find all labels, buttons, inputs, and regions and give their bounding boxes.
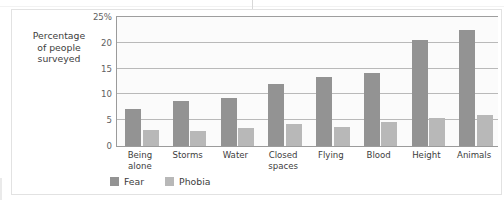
x-axis-label-animals: Animals — [450, 150, 498, 161]
legend-entry-fear[interactable]: Fear — [110, 176, 144, 187]
bar-phobia-closed-spaces — [286, 124, 302, 146]
y-tick-label-20: 20 — [66, 38, 112, 48]
y-tick-label-25%: 25% — [66, 12, 112, 22]
bar-fear-height — [412, 40, 428, 146]
plot-area — [116, 17, 498, 146]
x-label-line: Closed — [259, 150, 307, 161]
chart-figure: Percentage of people surveyed 0510152025… — [0, 0, 504, 200]
legend-swatch-icon-phobia — [165, 177, 174, 186]
legend-label-phobia: Phobia — [179, 176, 210, 187]
x-axis-label-being-alone: Beingalone — [116, 150, 164, 171]
x-label-line: Storms — [164, 150, 212, 161]
x-axis-label-height: Height — [403, 150, 451, 161]
bar-phobia-flying — [334, 127, 350, 146]
y-tick-label-5: 5 — [66, 115, 112, 125]
bar-fear-flying — [316, 77, 332, 146]
y-axis-line — [116, 17, 117, 147]
x-axis-label-flying: Flying — [307, 150, 355, 161]
x-label-line: Water — [212, 150, 260, 161]
bar-phobia-being-alone — [143, 130, 159, 146]
gridline-25 — [116, 16, 498, 17]
bar-fear-animals — [459, 30, 475, 146]
bar-fear-water — [221, 98, 237, 147]
bar-fear-storms — [173, 101, 189, 146]
y-tick-label-0: 0 — [66, 141, 112, 151]
x-label-line: Flying — [307, 150, 355, 161]
x-label-line: spaces — [259, 161, 307, 172]
y-tick-label-10: 10 — [66, 89, 112, 99]
bar-fear-being-alone — [125, 109, 141, 146]
gridline-15 — [116, 68, 498, 69]
x-label-line: Being — [116, 150, 164, 161]
x-axis-label-closed-spaces: Closedspaces — [259, 150, 307, 171]
x-axis-label-blood: Blood — [355, 150, 403, 161]
y-axis-tick-labels: 0510152025% — [60, 17, 112, 146]
bar-phobia-blood — [381, 122, 397, 146]
bar-fear-blood — [364, 73, 380, 146]
chart-legend: FearPhobia — [110, 176, 222, 187]
x-axis-label-water: Water — [212, 150, 260, 161]
y-tick-label-15: 15 — [66, 64, 112, 74]
left-edge-artifact — [0, 178, 2, 200]
bar-fear-closed-spaces — [268, 84, 284, 146]
x-axis-label-storms: Storms — [164, 150, 212, 161]
x-label-line: Height — [403, 150, 451, 161]
x-label-line: alone — [116, 161, 164, 172]
legend-entry-phobia[interactable]: Phobia — [165, 176, 210, 187]
bar-phobia-height — [429, 118, 445, 146]
x-label-line: Animals — [450, 150, 498, 161]
x-axis-line — [116, 146, 498, 147]
page-seam-artifact — [252, 0, 253, 9]
bar-phobia-storms — [190, 131, 206, 146]
bar-phobia-water — [238, 128, 254, 146]
legend-label-fear: Fear — [124, 176, 144, 187]
gridline-10 — [116, 93, 498, 94]
bar-phobia-animals — [477, 115, 493, 146]
legend-swatch-icon-fear — [110, 177, 119, 186]
x-label-line: Blood — [355, 150, 403, 161]
gridline-20 — [116, 42, 498, 43]
